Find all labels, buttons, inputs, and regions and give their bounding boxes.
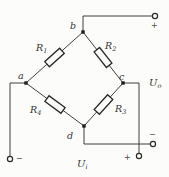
resistor-r4-body — [45, 96, 65, 114]
wire-c-to-input-plus-terminal — [123, 83, 139, 153]
terminal-input-plus — [136, 153, 141, 158]
circuit-figure: R1 R2 R4 R3 a — [0, 0, 169, 177]
node-c-label: c — [119, 71, 125, 82]
wire-a-to-input-minus-terminal — [10, 83, 26, 156]
resistor-r3: R3 — [94, 95, 126, 116]
wire-b-to-output-plus-terminal — [83, 16, 152, 32]
node-b-dot — [81, 30, 84, 33]
terminal-output-minus — [150, 141, 155, 146]
resistor-r4: R4 — [29, 96, 65, 117]
output-minus-sign: − — [149, 130, 156, 139]
resistor-r4-label: R4 — [29, 104, 41, 117]
node-b-label: b — [70, 20, 76, 31]
input-plus-sign: + — [124, 153, 131, 162]
terminal-output-plus — [152, 13, 157, 18]
input-voltage-label: Ui — [77, 158, 88, 171]
output-plus-sign: + — [151, 21, 158, 30]
terminals — [7, 13, 157, 161]
resistor-r1-label: R1 — [35, 42, 47, 55]
external-wires — [10, 16, 152, 156]
node-d-label: d — [67, 130, 73, 141]
node-d-dot — [82, 124, 85, 127]
node-labels: a b c d — [18, 20, 125, 141]
resistor-r3-label: R3 — [114, 103, 126, 116]
input-minus-sign: − — [16, 154, 23, 163]
output-voltage-label: Uo — [149, 77, 161, 90]
node-a-label: a — [18, 70, 24, 81]
wire-d-to-output-minus-terminal — [84, 126, 150, 144]
resistor-r1-body — [45, 48, 65, 67]
resistor-r2: R2 — [94, 40, 116, 68]
terminal-input-minus — [7, 156, 12, 161]
node-a-dot — [24, 81, 27, 84]
resistor-r2-label: R2 — [104, 40, 116, 53]
resistor-r3-body — [94, 95, 113, 115]
resistor-r1: R1 — [35, 42, 64, 67]
voltage-labels: Uo Ui — [77, 77, 161, 171]
wheatstone-bridge-diagram: R1 R2 R4 R3 a — [0, 0, 169, 177]
